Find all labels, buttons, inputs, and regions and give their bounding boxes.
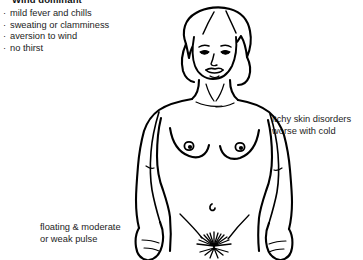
inguinal-crease-right xyxy=(228,215,249,239)
body-figure xyxy=(0,0,363,260)
hand-left-fingers xyxy=(144,248,159,251)
torso-right-side xyxy=(258,120,272,251)
inguinal-crease-left xyxy=(180,214,202,238)
nipple-left xyxy=(188,145,192,149)
pubic-hair xyxy=(197,232,231,258)
nipple-right xyxy=(239,146,243,150)
navel xyxy=(210,204,215,210)
illustration-canvas: Wind dominant ·mild fever and chills ·sw… xyxy=(0,0,363,260)
body-outline-right-arm xyxy=(238,100,292,229)
eye-right xyxy=(221,51,230,55)
hand-right-outer xyxy=(281,229,292,260)
hand-right-fingers xyxy=(269,249,284,252)
neck-tendon-right xyxy=(216,84,224,101)
neck-tendon-left xyxy=(206,84,214,101)
clavicle-left xyxy=(196,102,222,106)
neck-right xyxy=(230,80,238,100)
hand-left-outer xyxy=(136,228,147,260)
clavicle-right xyxy=(216,103,234,107)
body-outline-left-arm xyxy=(136,99,192,228)
hand-left-knuckles xyxy=(142,240,159,243)
hair-lock-right xyxy=(238,57,250,85)
eye-left xyxy=(200,51,209,55)
torso-left-side xyxy=(157,118,171,251)
hand-right-knuckles xyxy=(269,241,286,244)
